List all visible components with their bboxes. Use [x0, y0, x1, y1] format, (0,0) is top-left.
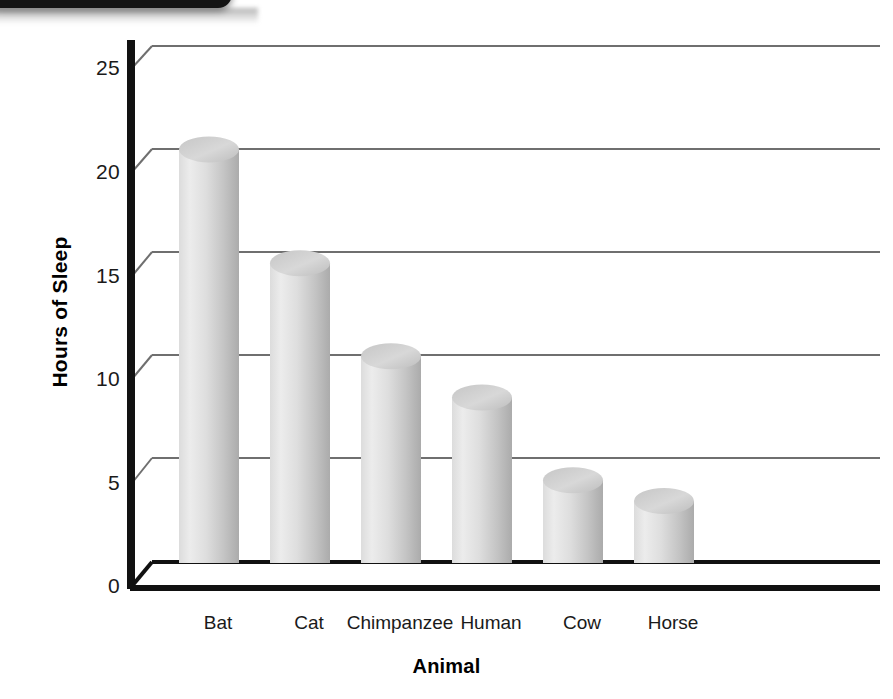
bar-cap-cow — [543, 467, 603, 493]
bar-cap-horse — [634, 488, 694, 514]
y-tick-label-15: 15 — [70, 264, 120, 288]
x-tick-label-horse: Horse — [648, 612, 699, 634]
bar-cap-cat — [270, 250, 330, 276]
x-axis-ticks: BatCatChimpanzeeHumanCowHorse — [0, 612, 893, 642]
y-axis-title: Hours of Sleep — [48, 192, 72, 432]
bar-body-human — [452, 398, 512, 563]
bar-body-cat — [270, 263, 330, 563]
bar-chart: 25 20 15 10 5 0 Hours of Sleep BatCatChi… — [0, 0, 893, 699]
x-tick-label-bat: Bat — [204, 612, 233, 634]
bar-body-bat — [179, 149, 239, 563]
bar-series — [179, 136, 694, 563]
chart-floor — [130, 562, 880, 588]
y-tick-label-5: 5 — [70, 471, 120, 495]
bar-cap-bat — [179, 136, 239, 162]
bar-cap-human — [452, 385, 512, 411]
y-tick-label-10: 10 — [70, 367, 120, 391]
y-tick-label-25: 25 — [70, 56, 120, 80]
x-tick-label-cow: Cow — [563, 612, 601, 634]
y-tick-label-20: 20 — [70, 160, 120, 184]
x-tick-label-human: Human — [460, 612, 521, 634]
y-tick-label-0: 0 — [70, 574, 120, 598]
bar-body-chimpanzee — [361, 356, 421, 563]
bar-cap-chimpanzee — [361, 343, 421, 369]
chart-plot-area — [0, 0, 893, 699]
x-tick-label-cat: Cat — [294, 612, 324, 634]
x-axis-title: Animal — [0, 655, 893, 678]
x-tick-label-chimpanzee: Chimpanzee — [347, 612, 454, 634]
